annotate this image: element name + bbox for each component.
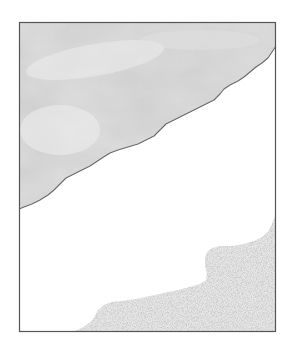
map-figure (0, 0, 293, 354)
